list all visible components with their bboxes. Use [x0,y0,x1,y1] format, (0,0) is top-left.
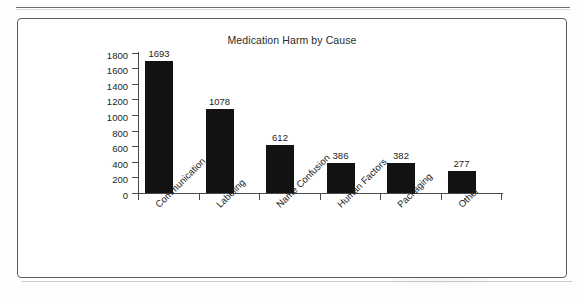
y-axis-tick-label: 1600 [107,65,128,76]
x-axis-line [138,193,503,194]
y-axis-tick: 1400 [132,84,138,85]
scanned-page: Medication Harm by Cause 020040060080010… [0,0,583,297]
y-axis-tick-label: 600 [112,143,128,154]
bar [145,61,173,193]
bar-value-label: 1078 [196,96,244,107]
bar-value-label: 612 [256,132,304,143]
y-axis-tick-mark [132,162,138,163]
y-axis-line [138,52,139,194]
page-top-rule [16,7,570,8]
y-axis-tick-label: 0 [123,190,128,201]
chart-frame-shadow [22,281,572,282]
x-axis-tick-mark [320,194,321,200]
y-axis-tick-mark [132,177,138,178]
plot-area: 020040060080010001200140016001800 169310… [17,18,567,278]
x-axis-tick-mark [259,194,260,200]
y-axis-tick-mark [132,146,138,147]
bar-value-label: 1693 [135,48,183,59]
y-axis-tick-label: 400 [112,159,128,170]
y-axis-tick-label: 1000 [107,112,128,123]
y-axis-tick: 400 [132,162,138,163]
y-axis-tick-label: 1200 [107,96,128,107]
x-axis-tick-mark [441,194,442,200]
bar-chart: Medication Harm by Cause 020040060080010… [17,18,567,278]
x-axis-tick-mark [380,194,381,200]
x-axis-tick-mark [199,194,200,200]
y-axis-tick: 200 [132,177,138,178]
y-axis-tick-label: 800 [112,128,128,139]
y-axis-tick-mark [132,84,138,85]
y-axis-tick: 600 [132,146,138,147]
x-axis-tick-mark [501,194,502,200]
y-axis-tick-mark [132,99,138,100]
y-axis-tick-mark [132,131,138,132]
y-axis-tick-mark [132,68,138,69]
page-top-rule-shadow [16,9,570,10]
y-axis-tick-label: 1400 [107,81,128,92]
y-axis-tick: 1200 [132,99,138,100]
y-axis-tick: 800 [132,131,138,132]
y-axis-tick-label: 1800 [107,50,128,61]
bar [206,109,234,193]
y-axis-tick: 1600 [132,68,138,69]
y-axis-tick-mark [132,115,138,116]
y-axis-tick-label: 200 [112,174,128,185]
y-axis-tick: 1000 [132,115,138,116]
x-axis-tick-mark [138,194,139,200]
bar-value-label: 277 [438,158,486,169]
